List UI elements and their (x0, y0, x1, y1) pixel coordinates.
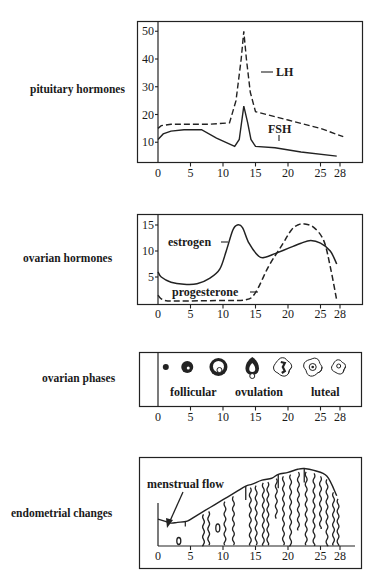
panel-ovarian-phases: 051015202528 follicular ovulation luteal (140, 353, 362, 425)
x-tick-label: 10 (217, 307, 229, 321)
x-axis-ticks: 051015202528 (155, 163, 346, 181)
y-axis-ticks: 51015 (142, 218, 158, 284)
y-tick-label: 10 (142, 244, 154, 258)
gland-line (267, 482, 269, 545)
x-tick-label: 28 (334, 549, 346, 563)
x-axis-ticks: 051015202528 (155, 305, 346, 322)
y-tick-label: 20 (142, 108, 154, 122)
gland-line (262, 483, 264, 545)
gland-line (298, 472, 300, 530)
gland-line (208, 511, 210, 545)
gland-line (203, 514, 205, 545)
gland-line (249, 488, 251, 545)
series-estrogen (158, 225, 337, 285)
gland-line (333, 492, 335, 545)
series-fsh (158, 106, 337, 156)
x-tick-label: 10 (217, 549, 229, 563)
x-tick-label: 15 (250, 307, 262, 321)
y-tick-label: 15 (142, 218, 154, 232)
x-axis-ticks: 051015202528 (155, 546, 346, 563)
x-tick-label: 28 (334, 166, 346, 180)
x-tick-label: 25 (315, 307, 327, 321)
follicle-icon (304, 358, 322, 376)
panel-endometrial: 051015202528 menstrual flow (140, 458, 362, 569)
x-tick-label: 15 (250, 410, 262, 424)
x-tick-label: 20 (282, 166, 294, 180)
follicle-icon (332, 360, 346, 374)
series-lh (158, 31, 343, 136)
panel-pituitary: 1020304050 051015202528 LH FSH (138, 22, 363, 181)
follicle-icon (246, 357, 260, 379)
x-tick-label: 5 (188, 166, 194, 180)
gland-line (326, 479, 328, 545)
gland-line (283, 476, 285, 545)
gland-line (224, 502, 226, 545)
x-tick-label: 25 (315, 410, 327, 424)
y-tick-label: 10 (142, 135, 154, 149)
annotation-ovulation: ovulation (235, 385, 283, 399)
x-tick-label: 25 (315, 549, 327, 563)
y-tick-label: 30 (142, 80, 154, 94)
x-tick-label: 25 (315, 166, 327, 180)
x-tick-label: 5 (188, 410, 194, 424)
follicle-icon (274, 358, 292, 376)
gland-line (337, 499, 339, 546)
follicle-icon (209, 358, 227, 376)
panel-ovarian-hormones: 51015 051015202528 estrogen progesterone (138, 215, 363, 322)
hormone-series (158, 31, 343, 156)
annotation-fsh: FSH (268, 122, 292, 136)
x-tick-label: 10 (217, 166, 229, 180)
annotation-lh: LH (276, 65, 294, 79)
annotation-menstrual-flow: menstrual flow (147, 477, 224, 491)
x-tick-label: 15 (250, 166, 262, 180)
follicle-icon (181, 361, 193, 373)
x-tick-label: 20 (282, 549, 294, 563)
x-tick-label: 0 (155, 549, 161, 563)
follicle-icon (163, 364, 169, 370)
x-tick-label: 10 (217, 410, 229, 424)
y-axis-ticks: 1020304050 (142, 24, 158, 149)
follicle-illustrations (163, 357, 346, 379)
x-tick-label: 15 (250, 549, 262, 563)
x-tick-label: 0 (155, 166, 161, 180)
x-tick-label: 0 (155, 307, 161, 321)
x-tick-label: 28 (334, 410, 346, 424)
menstrual-cycle-figure: 1020304050 051015202528 LH FSH 51015 051… (0, 0, 378, 579)
y-tick-label: 50 (142, 24, 154, 38)
y-tick-label: 5 (148, 270, 154, 284)
x-tick-label: 5 (188, 549, 194, 563)
x-axis-ticks: 051015202528 (155, 407, 346, 425)
annotation-progesterone: progesterone (172, 285, 239, 299)
x-tick-label: 20 (282, 307, 294, 321)
gland-line (290, 475, 292, 546)
gland-line (255, 486, 257, 545)
gland-line (233, 496, 235, 545)
gland-line (313, 473, 315, 545)
x-tick-label: 5 (188, 307, 194, 321)
y-tick-label: 40 (142, 52, 154, 66)
x-tick-label: 20 (282, 410, 294, 424)
gland-line (305, 472, 307, 545)
x-tick-label: 0 (155, 410, 161, 424)
gland-line (275, 479, 277, 519)
annotation-estrogen: estrogen (168, 235, 211, 249)
gland-line (320, 476, 322, 528)
x-tick-label: 28 (334, 307, 346, 321)
annotation-luteal: luteal (311, 385, 340, 399)
annotation-follicular: follicular (170, 385, 217, 399)
